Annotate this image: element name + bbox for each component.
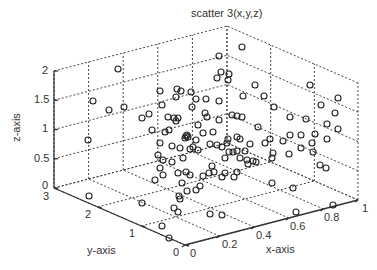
data-point [242, 148, 248, 154]
data-point [90, 98, 96, 104]
x-axis-label: x-axis [266, 244, 295, 255]
data-point [86, 193, 92, 199]
plot-area [0, 0, 377, 270]
data-point [240, 93, 246, 99]
data-point [317, 162, 323, 168]
data-point [324, 136, 330, 142]
scatter3d-figure: scatter 3(x,y,z) 2 1.5 1 0.5 0 z-axis 3 … [0, 0, 377, 270]
data-point [200, 173, 206, 179]
data-point [307, 82, 313, 88]
data-point [332, 110, 338, 116]
data-point [85, 137, 91, 143]
data-point [193, 96, 199, 102]
data-point [252, 82, 258, 88]
data-point [203, 96, 209, 102]
data-point [159, 223, 165, 229]
data-point [179, 180, 185, 186]
y-tick-3: 3 [43, 191, 49, 202]
y-tick-2: 2 [85, 209, 91, 220]
data-point [312, 131, 318, 137]
data-point [139, 115, 145, 121]
data-point [271, 104, 277, 110]
data-point [157, 165, 163, 171]
axes-lines [54, 71, 358, 247]
data-point [262, 140, 268, 146]
data-point [187, 172, 193, 178]
data-point [214, 75, 220, 81]
data-point [290, 185, 296, 191]
data-point [184, 188, 190, 194]
data-point [324, 121, 330, 127]
data-point [175, 170, 181, 176]
y-tick-0: 0 [173, 247, 179, 258]
data-point [245, 161, 251, 167]
data-point [115, 66, 121, 72]
data-point [180, 155, 186, 161]
data-point [298, 145, 304, 151]
data-point [177, 145, 183, 151]
data-point [323, 165, 329, 171]
x-tick-0.8: 0.8 [324, 212, 339, 223]
data-point [200, 130, 206, 136]
z-axis-label: z-axis [11, 113, 22, 142]
data-point [335, 126, 341, 132]
data-point [280, 138, 286, 144]
y-axis-label: y-axis [87, 245, 116, 256]
data-point [234, 148, 240, 154]
data-point [247, 141, 253, 147]
data-point [159, 102, 165, 108]
data-point [286, 151, 292, 157]
data-point [225, 136, 231, 142]
data-point [287, 132, 293, 138]
data-point [207, 141, 213, 147]
y-tick-1: 1 [129, 228, 135, 239]
data-point [269, 180, 275, 186]
data-point [230, 149, 236, 155]
chart-title: scatter 3(x,y,z) [191, 8, 262, 19]
data-point [160, 172, 166, 178]
z-tick-0.5: 0.5 [34, 153, 49, 164]
data-point [287, 114, 293, 120]
data-point [146, 111, 152, 117]
data-point [121, 104, 127, 110]
data-point [195, 122, 201, 128]
data-point [193, 137, 199, 143]
data-point [152, 177, 158, 183]
z-tick-1.5: 1.5 [34, 94, 49, 105]
data-point [237, 155, 243, 161]
z-tick-1: 1 [42, 123, 48, 134]
data-point [195, 147, 201, 153]
data-point [318, 102, 324, 108]
data-point [231, 174, 237, 180]
data-point [165, 114, 171, 120]
data-point [261, 93, 267, 99]
x-tick-0: 0 [190, 248, 196, 259]
data-point [139, 200, 145, 206]
data-point [175, 209, 181, 215]
data-point [216, 98, 222, 104]
data-point [197, 183, 203, 189]
data-point [219, 212, 225, 218]
data-point [244, 157, 250, 163]
x-tick-0.2: 0.2 [222, 239, 237, 250]
data-point [209, 163, 215, 169]
data-point [207, 211, 213, 217]
x-tick-1: 1 [362, 203, 368, 214]
data-point [239, 44, 245, 50]
data-point [169, 159, 175, 165]
data-point [106, 107, 112, 113]
data-point [298, 132, 304, 138]
x-tick-0.6: 0.6 [290, 221, 305, 232]
data-point [149, 127, 155, 133]
data-point [335, 95, 341, 101]
data-point [183, 169, 189, 175]
z-tick-2: 2 [42, 65, 48, 76]
data-point [218, 69, 224, 75]
data-point [169, 143, 175, 149]
data-point [225, 77, 231, 83]
data-point [222, 155, 228, 161]
data-point [293, 209, 299, 215]
data-point [310, 149, 316, 155]
data-point [216, 53, 222, 59]
data-point [216, 117, 222, 123]
